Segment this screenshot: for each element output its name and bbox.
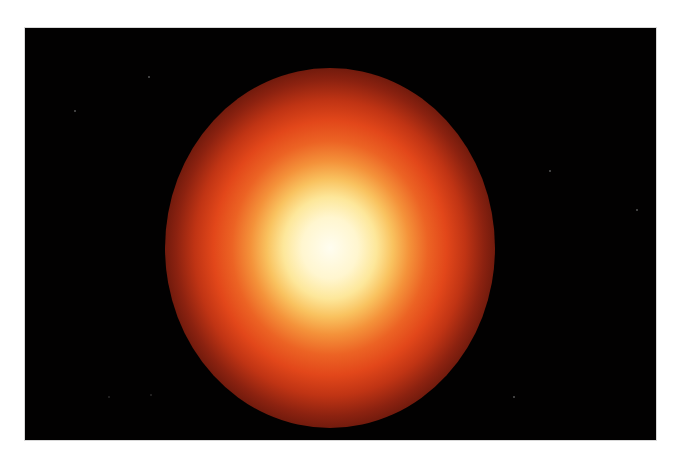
background-star-speck (148, 76, 150, 78)
background-star-speck (150, 394, 152, 396)
star-image-figure (25, 28, 656, 440)
document-page (0, 0, 679, 456)
background-star-speck (74, 110, 76, 112)
background-star-speck (513, 396, 515, 398)
background-star-speck (636, 209, 638, 211)
background-star-speck (108, 396, 110, 398)
background-star-speck (549, 170, 551, 172)
